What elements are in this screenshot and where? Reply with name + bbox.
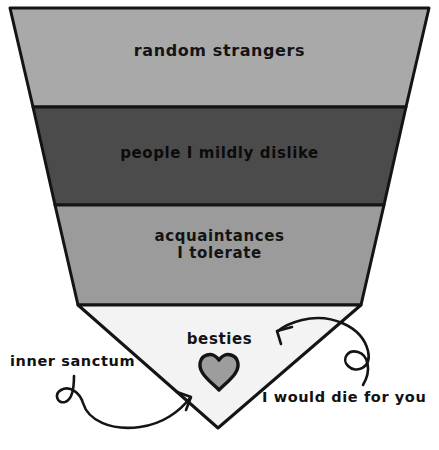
funnel-band-random-strangers (10, 8, 429, 107)
funnel-diagram (0, 0, 439, 450)
funnel-band-people-mildly-dislike (33, 107, 406, 205)
meme-image: random strangers people I mildly dislike… (0, 0, 439, 450)
funnel-band-acquaintances-tolerate (55, 205, 384, 305)
